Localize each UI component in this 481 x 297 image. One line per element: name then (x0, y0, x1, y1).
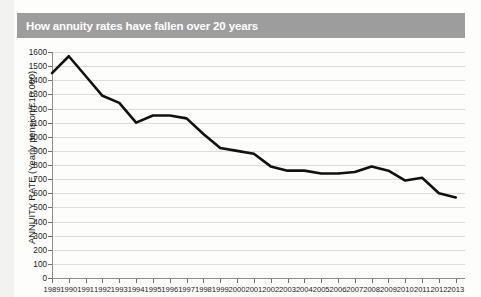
x-axis-tick-label: 2007 (346, 285, 363, 294)
x-axis-tick-label: 1993 (111, 285, 128, 294)
line-chart: ANNUITY RATE (Yearly pension/£10,000) 01… (0, 40, 481, 297)
x-axis-tick-label: 2003 (279, 285, 296, 294)
x-axis-tick-label: 2006 (330, 285, 347, 294)
y-axis-tick-label: 1100 (29, 118, 47, 127)
x-axis-tick-label: 1990 (60, 285, 77, 294)
y-axis-tick-label: 900 (33, 146, 47, 155)
x-axis-tick-mark (422, 279, 423, 283)
chart-title-banner: How annuity rates have fallen over 20 ye… (17, 13, 465, 38)
x-axis-tick-label: 2013 (447, 285, 464, 294)
plot-area: 0100200300400500600700800900100011001200… (52, 52, 465, 278)
x-axis-tick-mark (170, 279, 171, 283)
y-axis-tick-label: 400 (33, 217, 47, 226)
x-axis-tick-mark (52, 279, 53, 283)
x-axis-tick-mark (355, 279, 356, 283)
x-axis-tick-mark (439, 279, 440, 283)
x-axis-tick-mark (69, 279, 70, 283)
x-axis-tick-mark (153, 279, 154, 283)
x-axis-tick-mark (304, 279, 305, 283)
y-axis-tick-label: 1400 (29, 76, 47, 85)
x-axis-tick-label: 2008 (363, 285, 380, 294)
x-axis-tick-label: 2000 (229, 285, 246, 294)
x-axis-tick-label: 1989 (44, 285, 61, 294)
x-axis-tick-label: 2004 (296, 285, 313, 294)
x-axis-tick-mark (102, 279, 103, 283)
y-axis-tick-label: 1300 (29, 90, 47, 99)
annuity-rate-line (52, 52, 465, 278)
x-axis-tick-label: 1995 (144, 285, 161, 294)
x-axis-tick-mark (271, 279, 272, 283)
x-axis-tick-label: 2010 (397, 285, 414, 294)
y-axis-tick-label: 600 (33, 189, 47, 198)
x-axis-tick-label: 1994 (128, 285, 145, 294)
x-axis-tick-mark (237, 279, 238, 283)
x-axis-tick-mark (388, 279, 389, 283)
y-axis-tick-label: 1600 (29, 48, 47, 57)
y-axis-tick-label: 500 (33, 203, 47, 212)
y-axis-tick-label: 800 (33, 161, 47, 170)
x-axis-tick-label: 1991 (77, 285, 94, 294)
y-axis-tick-label: 100 (33, 259, 47, 268)
x-axis-tick-mark (203, 279, 204, 283)
x-axis-tick-mark (456, 279, 457, 283)
x-axis-tick-mark (372, 279, 373, 283)
x-axis-tick-label: 1998 (195, 285, 212, 294)
x-axis-tick-label: 1999 (212, 285, 229, 294)
x-axis-tick-mark (338, 279, 339, 283)
y-axis-tick-label: 1000 (29, 132, 47, 141)
y-axis-tick-label: 0 (42, 274, 47, 283)
x-axis-tick-mark (288, 279, 289, 283)
x-axis-tick-label: 2011 (414, 285, 430, 294)
x-axis-tick-mark (220, 279, 221, 283)
chart-page: How annuity rates have fallen over 20 ye… (0, 0, 481, 297)
y-axis-tick-label: 1200 (29, 104, 47, 113)
x-axis-tick-label: 1992 (94, 285, 111, 294)
x-axis-tick-mark (187, 279, 188, 283)
x-axis-tick-mark (321, 279, 322, 283)
x-axis-tick-mark (119, 279, 120, 283)
x-axis-line (52, 278, 465, 279)
x-axis-tick-label: 2005 (313, 285, 330, 294)
y-axis-tick-label: 300 (33, 231, 47, 240)
x-axis-tick-label: 2002 (262, 285, 279, 294)
y-axis-tick-label: 1500 (29, 62, 47, 71)
x-axis-tick-mark (405, 279, 406, 283)
x-axis-tick-label: 1996 (161, 285, 178, 294)
x-axis-tick-mark (86, 279, 87, 283)
x-axis-tick-label: 1997 (178, 285, 195, 294)
x-axis-tick-label: 2009 (380, 285, 397, 294)
x-axis-tick-mark (136, 279, 137, 283)
page-title: How annuity rates have fallen over 20 ye… (17, 20, 258, 32)
x-axis-tick-mark (254, 279, 255, 283)
x-axis-tick-label: 2012 (430, 285, 447, 294)
x-axis-tick-label: 2001 (245, 285, 262, 294)
y-axis-tick-label: 200 (33, 245, 47, 254)
y-axis-tick-label: 700 (33, 175, 47, 184)
